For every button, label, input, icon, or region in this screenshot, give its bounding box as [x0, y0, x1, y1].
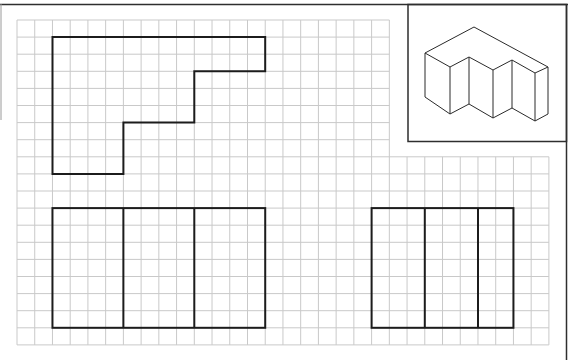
- isometric-block-icon: [425, 27, 548, 121]
- isometric-inset: [408, 5, 567, 142]
- drawing-sheet: [0, 0, 568, 360]
- outer-frame: [0, 4, 568, 360]
- inset-box: [408, 5, 567, 142]
